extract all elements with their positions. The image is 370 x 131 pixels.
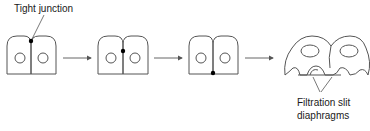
tight-junction-label: Tight junction (14, 3, 73, 15)
tight-junction-dot-middle (121, 49, 125, 53)
tight-junction-dot-apical (29, 39, 33, 43)
filtration-slit-leader-lines (313, 77, 332, 92)
cell-pair-stage-3 (189, 36, 238, 74)
cell-pair-stage-2 (98, 36, 148, 74)
filtration-slit-label-line1: Filtration slit (297, 97, 350, 109)
tight-junction-dot-basal (211, 71, 215, 75)
filtration-slit-label-line2: diaphragms (297, 110, 349, 122)
podocyte-pair (285, 36, 370, 75)
tight-junction-leader-line (32, 15, 44, 39)
